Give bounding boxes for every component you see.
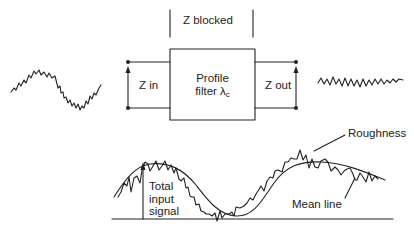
roughness-label: Roughness (348, 127, 406, 140)
filter-label-subscript: c (226, 90, 230, 99)
input-wave (11, 70, 101, 110)
total-input-line3: signal (149, 205, 179, 218)
total-input-signal-label: Total input signal (149, 180, 179, 218)
filter-label-text: filter λ (195, 85, 226, 97)
output-wave (318, 77, 403, 87)
mean-line-label: Mean line (292, 198, 342, 211)
diagram-canvas (0, 0, 414, 231)
input-bottom-terminal (126, 106, 130, 110)
filter-label-line1: Profile (170, 72, 255, 85)
z-out-label: Z out (265, 79, 291, 92)
roughness-leader (314, 135, 345, 151)
z-in-label: Z in (139, 79, 158, 92)
input-top-terminal (126, 60, 130, 64)
total-input-line2: input (149, 193, 179, 206)
z-out-arrowhead-icon (294, 66, 299, 73)
total-input-line1: Total (149, 180, 179, 193)
output-bottom-terminal (294, 106, 298, 110)
filter-label-line2: filter λc (170, 85, 255, 101)
profile-filter-label: Profile filter λc (170, 72, 255, 101)
output-top-terminal (294, 60, 298, 64)
z-blocked-label: Z blocked (183, 14, 233, 27)
z-in-arrowhead-icon (126, 66, 131, 73)
mean-line-leader (345, 178, 355, 198)
